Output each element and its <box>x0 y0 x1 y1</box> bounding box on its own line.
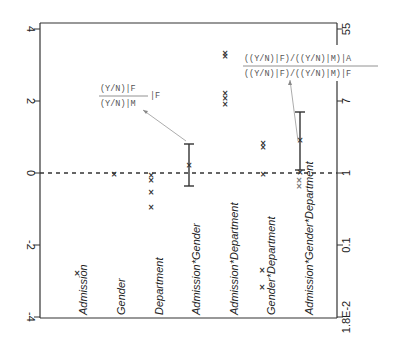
annotation-suffix: |F <box>150 91 160 101</box>
data-point: × <box>259 283 266 292</box>
right-tick-label: 55 <box>340 23 352 35</box>
right-tick-label: 1.8E-2 <box>340 301 352 333</box>
category-label-department: Department <box>153 257 165 315</box>
annotation-numerator: ((Y/N)|F)/((Y/N)|M)|A <box>244 54 352 64</box>
data-point: × <box>148 188 155 197</box>
left-tick-label: -2 <box>25 240 37 250</box>
right-tick-label: 0.1 <box>340 237 352 252</box>
category-label-admission-department: Admission*Department <box>228 202 240 316</box>
right-tick-label: 1 <box>340 170 352 176</box>
data-point: × <box>222 52 229 61</box>
data-point: × <box>260 170 267 179</box>
data-point: × <box>111 170 118 179</box>
category-label-gender-department: Gender*Department <box>265 216 277 315</box>
data-point: × <box>148 176 155 185</box>
left-tick-label: -4 <box>25 312 37 322</box>
category-label-gender: Gender <box>115 277 127 315</box>
data-point: × <box>259 266 266 275</box>
annotation-gender-ratio: (Y/N)|F (Y/N)|M |F <box>99 84 186 141</box>
right-tick-label: 7 <box>340 98 352 104</box>
annotation-numerator: (Y/N)|F <box>100 84 136 94</box>
data-point: × <box>222 100 229 109</box>
data-point: × <box>296 182 303 191</box>
data-point: × <box>74 269 81 278</box>
chart: 4 2 0 -2 -4 55 7 1 0.1 1.8E-2 Admission … <box>0 0 393 341</box>
annotation-denominator: (Y/N)|M <box>100 99 136 109</box>
category-label-admission-gender: Admission*Gender <box>190 222 202 316</box>
left-tick-label: 4 <box>25 26 37 32</box>
annotation-three-way-ratio: ((Y/N)|F)/((Y/N)|M)|A ((Y/N)|F)/((Y/N)|M… <box>243 54 378 141</box>
category-labels: Admission Gender Department Admission*Ge… <box>77 161 315 316</box>
annotation-denominator: ((Y/N)|F)/((Y/N)|M)|F <box>244 69 351 79</box>
left-tick-label: 0 <box>25 170 37 176</box>
left-axis-labels: 4 2 0 -2 -4 <box>25 26 37 322</box>
data-point: × <box>148 203 155 212</box>
data-point: × <box>260 143 267 152</box>
category-label-admission-gender-department: Admission*Gender*Department <box>303 161 315 316</box>
left-tick-label: 2 <box>25 98 37 104</box>
